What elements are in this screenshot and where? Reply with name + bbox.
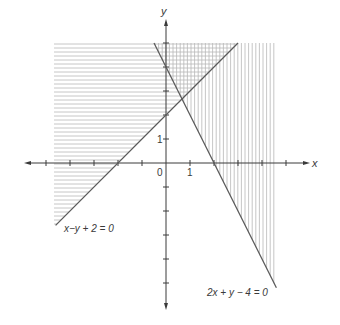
line-1-equation-label: x−y + 2 = 0 bbox=[63, 223, 114, 234]
origin-label: 0 bbox=[157, 167, 163, 178]
y-tick-label-1: 1 bbox=[157, 134, 163, 145]
x-tick-label-1: 1 bbox=[187, 167, 193, 178]
x-axis-arrow-left-icon bbox=[24, 161, 31, 165]
line-2x-plus-y-minus-4 bbox=[154, 43, 276, 288]
y-axis-label: y bbox=[160, 5, 168, 17]
coordinate-plane: y x 0 1 1 x−y + 2 = 0 2x + y − 4 = 0 bbox=[0, 0, 340, 325]
y-axis-arrow-down-icon bbox=[164, 303, 168, 310]
y-axis bbox=[164, 19, 168, 310]
x-axis-label: x bbox=[311, 157, 318, 169]
x-axis-arrow-right-icon bbox=[303, 161, 310, 165]
y-axis-arrow-up-icon bbox=[164, 19, 168, 26]
graph-figure: y x 0 1 1 x−y + 2 = 0 2x + y − 4 = 0 bbox=[0, 0, 340, 325]
horizontal-hatch-region bbox=[50, 44, 240, 224]
line-x-minus-y-plus-2 bbox=[56, 43, 238, 225]
line-2-equation-label: 2x + y − 4 = 0 bbox=[206, 287, 268, 298]
